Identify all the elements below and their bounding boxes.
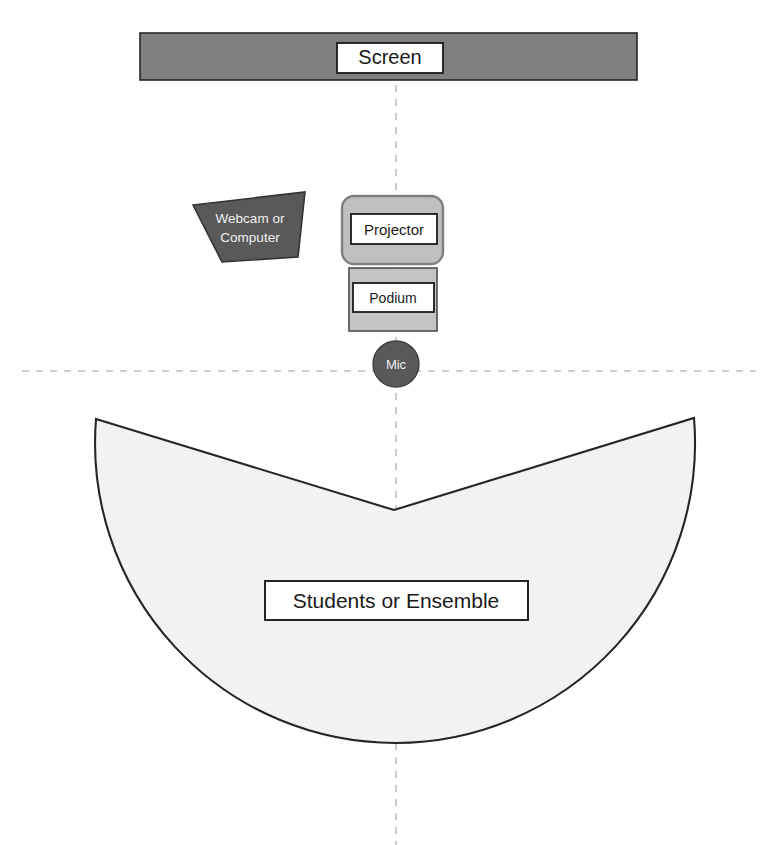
webcam-label-line1: Webcam or bbox=[216, 211, 285, 226]
podium-label: Podium bbox=[369, 290, 416, 306]
projector-label: Projector bbox=[364, 221, 424, 238]
diagram-canvas: Screen Webcam or Computer Projector Podi… bbox=[0, 0, 772, 845]
webcam-shape bbox=[193, 192, 305, 262]
mic-label: Mic bbox=[386, 357, 407, 372]
screen-label: Screen bbox=[358, 46, 421, 68]
audience-label: Students or Ensemble bbox=[293, 589, 500, 612]
room-layout-diagram: Screen Webcam or Computer Projector Podi… bbox=[0, 0, 772, 845]
webcam-label-line2: Computer bbox=[220, 230, 280, 245]
